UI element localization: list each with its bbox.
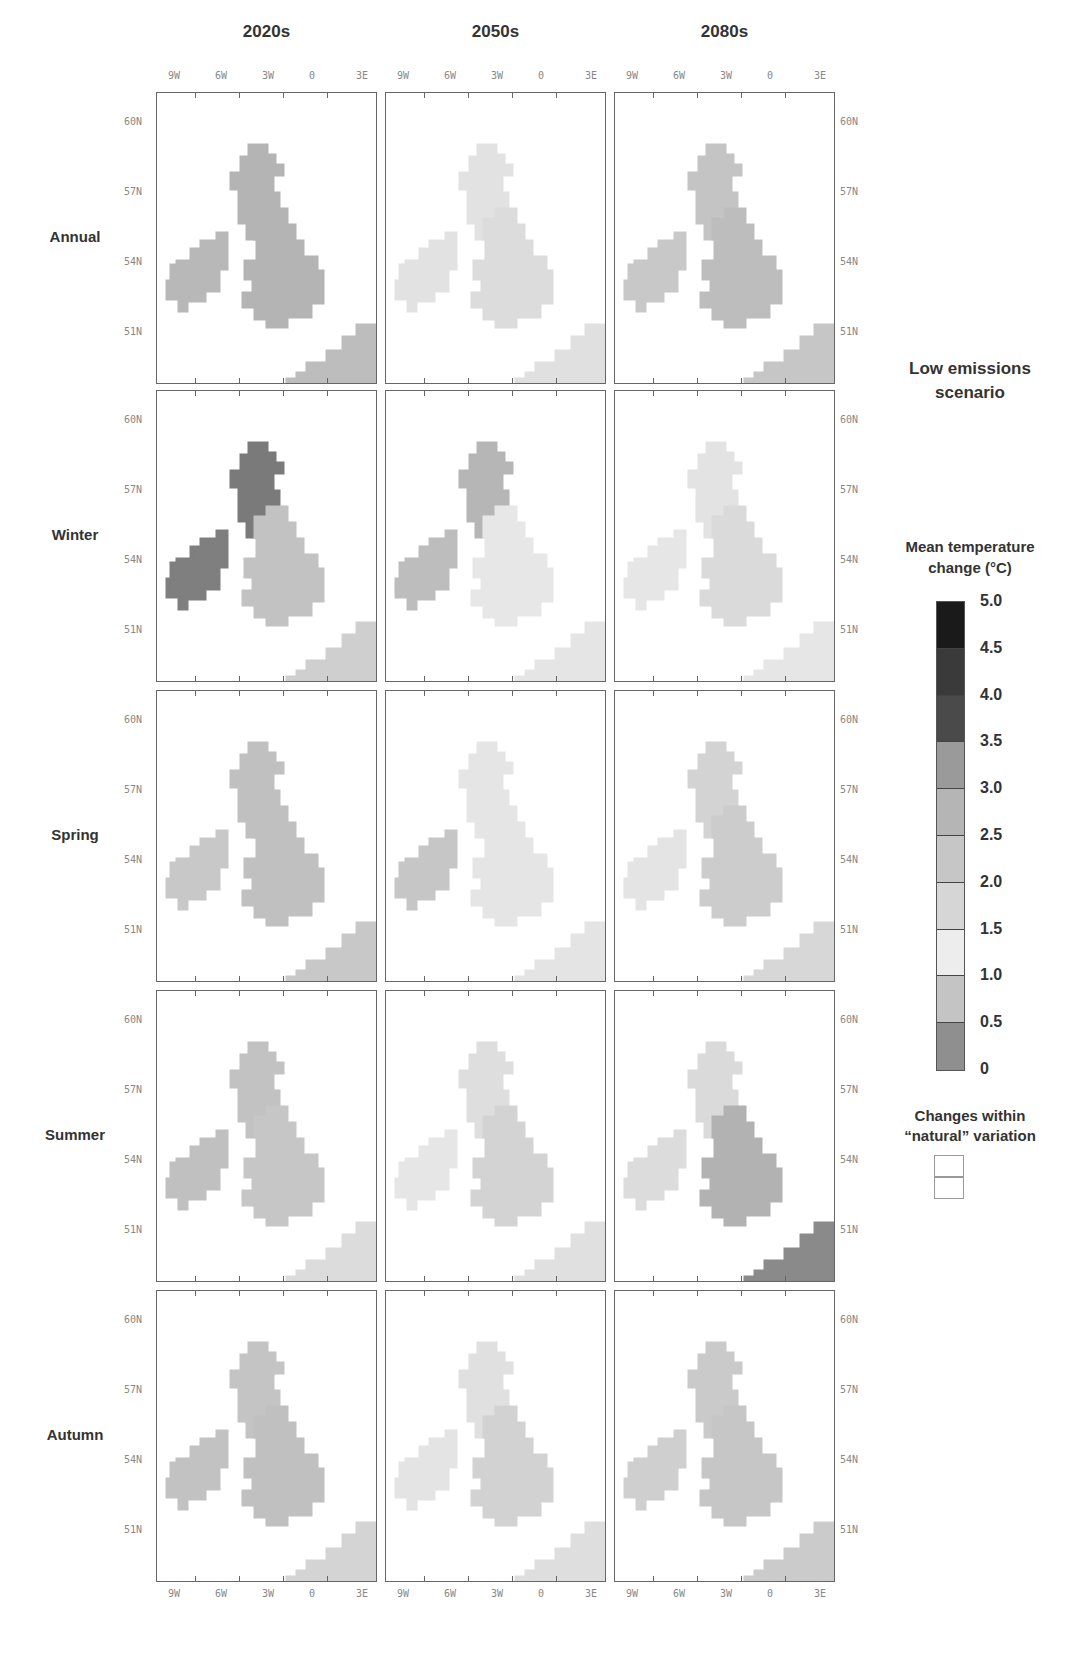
x-tick-mark	[741, 391, 742, 396]
x-axis-tick-label: 3E	[585, 70, 597, 81]
scale-tick-label: 1.5	[980, 920, 1002, 938]
x-tick-mark	[653, 691, 654, 696]
x-tick-mark	[556, 93, 557, 98]
natural-title-line2: “natural” variation	[870, 1126, 1070, 1146]
x-tick-mark	[653, 991, 654, 996]
x-tick-mark	[195, 676, 196, 681]
x-tick-mark	[653, 378, 654, 383]
x-tick-mark	[556, 991, 557, 996]
x-tick-mark	[512, 976, 513, 981]
y-axis-tick-label: 54N	[840, 554, 858, 565]
x-tick-mark	[785, 93, 786, 98]
scale-tick-label: 4.0	[980, 686, 1002, 704]
uk-map	[157, 1291, 377, 1582]
england-wales-region	[243, 807, 323, 925]
x-tick-mark	[468, 378, 469, 383]
x-tick-mark	[327, 991, 328, 996]
uk-map	[386, 691, 606, 982]
scale-band	[937, 602, 964, 649]
x-tick-mark	[468, 991, 469, 996]
x-tick-mark	[239, 378, 240, 383]
x-tick-mark	[239, 976, 240, 981]
map-panel-annual-2080s	[614, 92, 835, 384]
x-tick-mark	[327, 93, 328, 98]
uk-map	[157, 391, 377, 682]
y-axis-tick-label: 57N	[840, 1084, 858, 1095]
england-wales-region	[472, 1107, 552, 1225]
x-axis-tick-label: 3E	[356, 1588, 368, 1599]
x-tick-mark	[468, 391, 469, 396]
x-tick-mark	[239, 93, 240, 98]
x-axis-tick-label: 0	[538, 1588, 544, 1599]
x-tick-mark	[195, 1276, 196, 1281]
continental-europe-region	[516, 325, 606, 384]
x-axis-tick-label: 3E	[814, 1588, 826, 1599]
x-tick-mark	[785, 391, 786, 396]
ireland-region	[396, 233, 456, 311]
ireland-region	[625, 1131, 685, 1209]
x-tick-mark	[653, 1276, 654, 1281]
england-wales-region	[472, 807, 552, 925]
ireland-region	[167, 233, 227, 311]
x-axis-tick-label: 3W	[491, 1588, 503, 1599]
x-tick-mark	[468, 1276, 469, 1281]
x-tick-mark	[697, 691, 698, 696]
ireland-region	[396, 1131, 456, 1209]
uk-map	[386, 1291, 606, 1582]
x-axis-tick-label: 6W	[215, 70, 227, 81]
y-axis-tick-label: 54N	[840, 1454, 858, 1465]
x-tick-mark	[424, 1276, 425, 1281]
x-tick-mark	[512, 391, 513, 396]
x-tick-mark	[195, 391, 196, 396]
x-axis-tick-label: 9W	[397, 70, 409, 81]
x-tick-mark	[239, 1276, 240, 1281]
x-axis-tick-label: 6W	[673, 1588, 685, 1599]
x-tick-mark	[653, 1576, 654, 1581]
scale-band	[937, 836, 964, 883]
x-tick-mark	[195, 93, 196, 98]
scenario-title: Low emissions scenario	[870, 357, 1070, 405]
x-tick-mark	[741, 691, 742, 696]
x-tick-mark	[239, 1291, 240, 1296]
scale-band	[937, 649, 964, 696]
y-axis-tick-label: 51N	[124, 624, 142, 635]
scale-tick-label: 3.0	[980, 779, 1002, 797]
uk-map	[615, 991, 835, 1282]
england-wales-region	[701, 209, 781, 327]
x-axis-tick-label: 3W	[262, 70, 274, 81]
y-axis-tick-label: 51N	[124, 1524, 142, 1535]
x-tick-mark	[785, 976, 786, 981]
england-wales-region	[243, 507, 323, 625]
uk-map	[386, 93, 606, 384]
map-panel-summer-2080s	[614, 990, 835, 1282]
x-tick-mark	[424, 976, 425, 981]
uk-map	[157, 991, 377, 1282]
scale-tick-label: 0.5	[980, 1013, 1002, 1031]
england-wales-region	[243, 209, 323, 327]
x-tick-mark	[512, 991, 513, 996]
continental-europe-region	[745, 1223, 835, 1282]
y-axis-tick-label: 54N	[124, 256, 142, 267]
ireland-region	[625, 233, 685, 311]
england-wales-region	[701, 507, 781, 625]
x-tick-mark	[785, 676, 786, 681]
x-tick-mark	[239, 391, 240, 396]
x-tick-mark	[239, 1576, 240, 1581]
x-tick-mark	[424, 691, 425, 696]
y-axis-tick-label: 60N	[124, 414, 142, 425]
x-tick-mark	[512, 676, 513, 681]
ireland-region	[396, 831, 456, 909]
map-panel-winter-2050s	[385, 390, 606, 682]
x-tick-mark	[697, 976, 698, 981]
natural-title-line1: Changes within	[870, 1106, 1070, 1126]
x-tick-mark	[785, 991, 786, 996]
x-axis-tick-label: 0	[538, 70, 544, 81]
map-panel-autumn-2050s	[385, 1290, 606, 1582]
x-tick-mark	[556, 1576, 557, 1581]
scenario-title-line1: Low emissions	[870, 357, 1070, 381]
x-tick-mark	[283, 93, 284, 98]
scenario-title-line2: scenario	[870, 381, 1070, 405]
x-axis-tick-label: 3E	[814, 70, 826, 81]
x-tick-mark	[741, 991, 742, 996]
x-tick-mark	[785, 691, 786, 696]
